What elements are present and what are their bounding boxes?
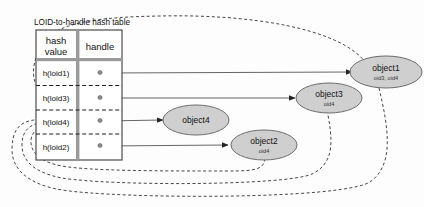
handle-pointer-dot-1[interactable] — [98, 95, 102, 99]
hash-value-cell-0: h(loid1) — [43, 69, 70, 78]
handle-link-hloid1-to-object1 — [103, 72, 352, 73]
object-object1[interactable]: object1 oid3, oid4 — [350, 56, 422, 88]
object4-label: object4 — [182, 115, 210, 125]
hash-table[interactable]: hash value handle h(loid1) h(loid3) h(lo… — [36, 30, 122, 160]
hash-value-cell-2: h(loid4) — [43, 118, 70, 127]
column-header-hash-value-line1: hash — [46, 35, 67, 46]
object-object4[interactable]: object4 — [163, 105, 229, 135]
object2-label: object2 — [250, 136, 278, 146]
object-object3[interactable]: object3 oid4 — [296, 83, 362, 113]
handle-pointer-dot-0[interactable] — [98, 70, 102, 74]
hash-table-header-rule — [36, 58, 122, 61]
object1-label: object1 — [372, 63, 400, 73]
object1-sublabel: oid3, oid4 — [374, 75, 398, 81]
column-header-hash-value-line2: value — [45, 46, 68, 57]
object2-sublabel: oid4 — [259, 148, 270, 154]
diagram-caption: LOID-to-handle hash table — [34, 18, 130, 27]
object3-sublabel: oid4 — [324, 101, 335, 107]
column-header-handle: handle — [86, 41, 115, 52]
hash-value-cell-3: h(loid2) — [43, 143, 70, 152]
hash-value-cell-1: h(loid3) — [43, 94, 70, 103]
hash-table-column-divider — [76, 30, 79, 160]
diagram-svg: object1 oid3, oid4 object3 oid4 object4 … — [0, 0, 424, 207]
object-object2[interactable]: object2 oid4 — [231, 130, 297, 160]
handle-pointer-dot-3[interactable] — [98, 143, 102, 147]
handle-pointer-dot-2[interactable] — [98, 118, 102, 122]
object3-label: object3 — [315, 89, 343, 99]
diagram-canvas: object1 oid3, oid4 object3 oid4 object4 … — [0, 0, 424, 207]
